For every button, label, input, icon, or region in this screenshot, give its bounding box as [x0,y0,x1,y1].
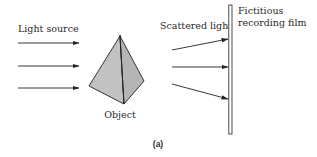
incident-rays [18,43,79,88]
object-label: Object [104,109,136,120]
object-pyramid-icon [89,35,144,104]
recording-film [229,5,232,134]
scattered-ray-arrow-icon [172,84,228,99]
scattered-rays [172,39,228,99]
scattered-ray-arrow-icon [172,39,228,50]
light-source-label: Light source [18,23,79,34]
film-label-line1: Fictitious [238,5,284,16]
film-label-line2: recording film [238,17,306,28]
figure-caption: (a) [153,139,164,149]
diagram-holography-setup: Light source Object Scattered light Fict… [0,0,317,157]
scattered-light-label: Scattered light [160,20,232,31]
